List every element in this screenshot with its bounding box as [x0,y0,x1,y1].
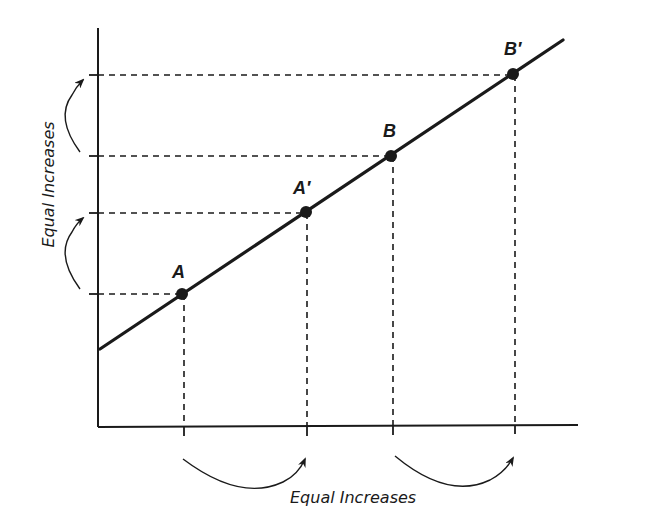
vertical-guides [184,75,515,427]
point-b-label: B [383,121,396,142]
x-increase-arrow-b-icon [395,456,513,486]
y-increase-arrow-b-icon [65,80,83,152]
point-a-prime-marker [300,206,312,218]
x-increase-arrow-a-icon [183,459,305,488]
x-axis [98,425,578,427]
point-a-marker [176,288,188,300]
y-axis-title: Equal Increases [39,110,58,260]
diagram-svg [0,0,665,529]
point-b-prime-marker [507,68,519,80]
x-axis-title: Equal Increases [290,488,416,507]
linear-relation-line [100,40,563,349]
point-a-label: A [172,262,185,283]
point-b-marker [385,150,397,162]
y-increase-arrow-a-icon [65,218,83,289]
point-b-prime-label: B′ [504,39,521,60]
axis-ticks [89,75,515,436]
point-a-prime-label: A′ [293,178,310,199]
diagram-canvas: A A′ B B′ Equal Increases Equal Increase… [0,0,665,529]
